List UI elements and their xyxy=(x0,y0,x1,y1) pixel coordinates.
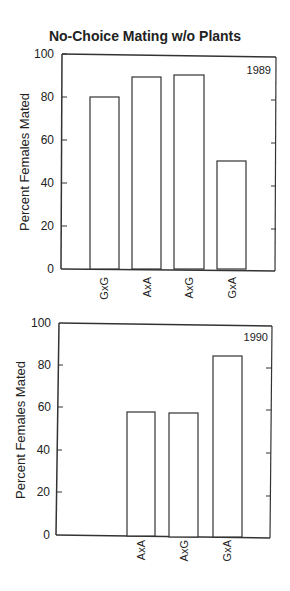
bar-axg xyxy=(174,75,204,269)
y-tick-label: 100 xyxy=(31,316,51,330)
x-tick-labels: GxG AxA AxG GxA xyxy=(98,276,238,299)
x-tick-label: GxG xyxy=(98,277,110,300)
y-tick-label: 80 xyxy=(38,358,52,372)
bar-gxa xyxy=(217,161,246,269)
y-tick-label: 80 xyxy=(41,90,55,104)
bar-axa xyxy=(127,412,155,536)
bar-chart-1989: 100 80 60 40 20 0 Percent Females Mated … xyxy=(0,0,290,310)
year-annotation: 1990 xyxy=(244,331,268,343)
y-tick-labels: 100 80 60 40 20 0 xyxy=(31,316,51,542)
x-tick-label: AxG xyxy=(183,277,195,298)
bar-gxg xyxy=(90,97,119,269)
y-tick-label: 40 xyxy=(37,443,51,457)
y-tick-label: 100 xyxy=(34,47,54,61)
bars xyxy=(90,75,246,269)
y-axis-label: Percent Females Mated xyxy=(13,361,28,499)
x-tick-labels: AxA AxG GxA xyxy=(135,539,233,561)
y-tick-label: 0 xyxy=(47,262,54,276)
year-annotation: 1989 xyxy=(247,64,271,76)
y-tick-label: 0 xyxy=(43,528,50,542)
y-tick-label: 20 xyxy=(37,485,51,499)
x-tick-label: GxA xyxy=(221,539,233,561)
x-tick-label: AxA xyxy=(141,276,153,297)
y-tick-labels: 100 80 60 40 20 0 xyxy=(34,47,54,276)
x-tick-label: AxG xyxy=(178,540,190,561)
bar-chart-1990: 100 80 60 40 20 0 Percent Females Mated … xyxy=(0,310,290,591)
y-tick-label: 60 xyxy=(38,400,52,414)
x-tick-label: GxA xyxy=(226,276,238,298)
bars xyxy=(127,356,242,537)
y-axis-label: Percent Females Mated xyxy=(17,93,32,231)
y-tick-label: 40 xyxy=(41,176,55,190)
y-tick-label: 20 xyxy=(41,219,55,233)
y-tick-label: 60 xyxy=(41,133,55,147)
bar-gxa xyxy=(213,356,242,537)
bar-axa xyxy=(132,77,161,269)
bar-axg xyxy=(169,413,198,537)
x-tick-label: AxA xyxy=(135,539,147,560)
